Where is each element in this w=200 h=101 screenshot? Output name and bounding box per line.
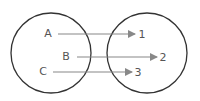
domain-element-a: A <box>44 28 52 40</box>
codomain-element-3: 3 <box>135 67 142 79</box>
domain-element-b: B <box>62 51 70 63</box>
codomain-element-2: 2 <box>160 52 167 64</box>
domain-circle <box>11 13 91 93</box>
mapping-diagram <box>0 0 200 101</box>
codomain-circle <box>107 13 187 93</box>
domain-element-c: C <box>39 66 47 78</box>
codomain-element-1: 1 <box>139 29 146 41</box>
